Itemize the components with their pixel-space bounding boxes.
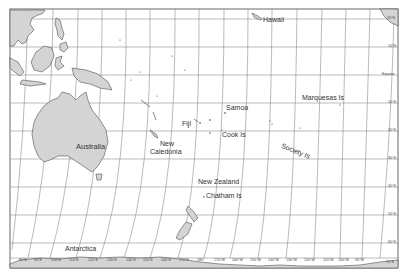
- lon-label: 150°W: [250, 259, 261, 263]
- lon-label: 170°E: [179, 259, 189, 263]
- lon-label: 160°W: [232, 259, 243, 263]
- lat-label-60s: 60°S: [388, 241, 396, 245]
- lon-label: 110°W: [323, 259, 334, 263]
- map-graticule: [0, 0, 404, 280]
- tasmania: [96, 174, 102, 180]
- label-fiji: Fiji: [182, 120, 191, 127]
- label-hawaii: Hawaii: [263, 16, 284, 23]
- lon-label: 180°: [197, 259, 204, 263]
- lon-label: 140°E: [126, 259, 136, 263]
- lon-label: 160°E: [161, 259, 171, 263]
- label-antarctica: Antarctica: [65, 245, 96, 252]
- lon-label: 100°E: [51, 259, 61, 263]
- label-australia: Australia: [76, 143, 105, 151]
- label-samoa: Samoa: [226, 104, 248, 111]
- label-cook: Cook Is: [222, 131, 246, 138]
- map: Hawaii Marquesas Is Samoa Fiji Cook Is S…: [0, 0, 404, 280]
- lat-label-20s: 20°S: [388, 129, 396, 133]
- lon-label: 90°W: [355, 259, 364, 263]
- label-new-zealand: New Zealand: [198, 178, 239, 185]
- lat-label-10n: 10°N: [388, 45, 396, 49]
- lon-label: 90°E: [34, 259, 42, 263]
- lat-label-40s: 40°S: [388, 185, 396, 189]
- label-new-caledonia-line2: Caledonia: [150, 148, 182, 155]
- lat-label-10s: 10°S: [388, 101, 396, 105]
- lat-label-70s: 70°S: [386, 261, 394, 265]
- lon-label: 130°W: [286, 259, 297, 263]
- label-chatham: Chatham Is: [206, 192, 242, 199]
- lon-label: 170°W: [214, 259, 225, 263]
- lon-label: 120°E: [88, 259, 98, 263]
- lon-label: 140°W: [268, 259, 279, 263]
- lon-label: 120°W: [304, 259, 315, 263]
- lon-label: 110°E: [69, 259, 79, 263]
- label-marquesas: Marquesas Is: [302, 94, 344, 101]
- lat-label-equator: Equator: [382, 73, 395, 77]
- lon-label: 100°W: [338, 259, 349, 263]
- lon-label: 80°E: [19, 259, 27, 263]
- lon-label: 130°E: [107, 259, 117, 263]
- lat-label-20n: 20°N: [387, 17, 395, 21]
- lon-label: 150°E: [143, 259, 153, 263]
- label-new-caledonia-line1: New: [160, 140, 174, 147]
- lat-label-50s: 50°S: [388, 213, 396, 217]
- lat-label-30s: 30°S: [388, 157, 396, 161]
